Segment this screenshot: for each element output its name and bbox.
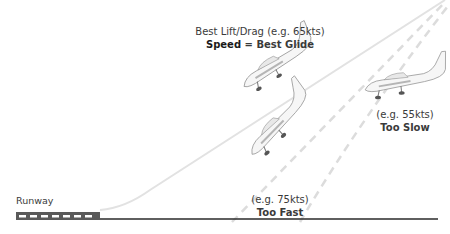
too-slow-label: (e.g. 55kts) Too Slow [370, 108, 440, 134]
runway-label: Runway [16, 195, 53, 206]
glide-diagram: Best Lift/Drag (e.g. 65kts) Speed = Best… [0, 0, 450, 234]
too-fast-speed-text: (e.g. 75kts) [240, 193, 320, 206]
airplane-too-slow-icon [362, 51, 450, 100]
equals-sign: = [241, 39, 256, 50]
too-slow-speed-text: (e.g. 55kts) [370, 108, 440, 121]
best-glide-speed-text: Best Lift/Drag (e.g. 65kts) [190, 25, 330, 38]
best-glide-title: Speed = Best Glide [190, 38, 330, 51]
too-fast-label: (e.g. 75kts) Too Fast [240, 193, 320, 219]
too-slow-title: Too Slow [370, 121, 440, 134]
best-glide-label: Best Lift/Drag (e.g. 65kts) Speed = Best… [190, 25, 330, 51]
speed-word: Speed [206, 39, 241, 50]
too-fast-title: Too Fast [240, 206, 320, 219]
best-glide-word: Best Glide [256, 39, 314, 50]
